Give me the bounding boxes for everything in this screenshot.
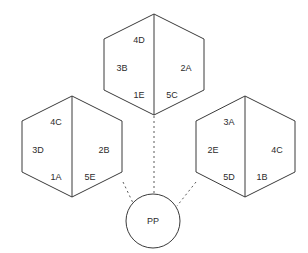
- connector-left-to-center: [123, 182, 133, 203]
- hexagon-top-label-right: 2A: [180, 63, 191, 73]
- hexagon-top[interactable]: 4D 3B 1E 5C 2A: [104, 14, 204, 115]
- center-node-label: PP: [147, 216, 159, 226]
- center-node-pp[interactable]: PP: [126, 194, 180, 248]
- hexagon-left-label-right: 2B: [98, 145, 109, 155]
- hexagon-right-label-left: 2E: [207, 145, 218, 155]
- hexagon-right-label-bottom-left: 5D: [223, 172, 235, 182]
- hexagon-left[interactable]: 4C 3D 2B 1A 5E: [22, 96, 122, 197]
- hexagon-left-label-left: 3D: [32, 145, 44, 155]
- hexagon-cluster-diagram: 4D 3B 1E 5C 2A 4C 3D 2B 1A 5E 3A 2E 4C 5…: [0, 0, 308, 253]
- hexagon-left-label-bottom-left: 1A: [50, 172, 61, 182]
- hexagon-top-label-top-left: 4D: [133, 35, 145, 45]
- hexagon-left-label-bottom-right: 5E: [84, 172, 95, 182]
- hexagon-top-label-bottom-left: 1E: [133, 90, 144, 100]
- diagram-canvas: 4D 3B 1E 5C 2A 4C 3D 2B 1A 5E 3A 2E 4C 5…: [0, 0, 308, 253]
- hexagon-right-label-top-left: 3A: [223, 117, 234, 127]
- hexagon-top-label-bottom-right: 5C: [166, 90, 178, 100]
- hexagon-top-label-left: 3B: [116, 63, 127, 73]
- hexagon-right-label-right: 4C: [271, 145, 283, 155]
- connector-right-to-center: [177, 182, 196, 206]
- hexagon-left-label-top-right: 4C: [50, 117, 62, 127]
- hexagon-right[interactable]: 3A 2E 4C 5D 1B: [196, 96, 295, 197]
- hexagon-right-label-bottom-right: 1B: [256, 172, 267, 182]
